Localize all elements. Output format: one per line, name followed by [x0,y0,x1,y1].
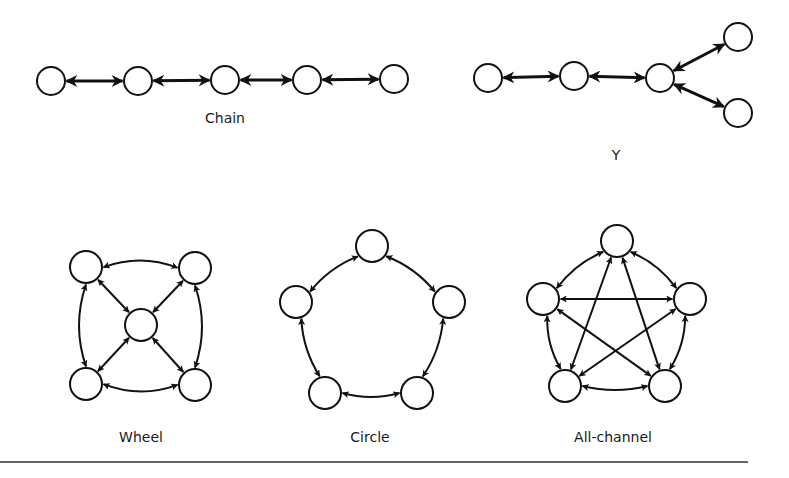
network-node [356,230,388,262]
bidirectional-arrow [622,258,659,370]
network-node [179,252,211,284]
network-circle [280,230,465,409]
bidirectional-arrow [579,309,675,376]
network-node [527,283,559,315]
label-chain: Chain [205,110,245,126]
bidirectional-curved-arrow [301,319,319,377]
network-node [124,67,152,95]
bidirectional-arrow [571,257,611,369]
network-node [474,64,502,92]
network-node [549,370,581,402]
bidirectional-curved-arrow [386,256,435,291]
bidirectional-curved-arrow [631,252,677,288]
network-node [280,286,312,318]
network-node [70,251,102,283]
bidirectional-curved-arrow [583,386,648,390]
bidirectional-curved-arrow [423,319,443,377]
network-node [293,66,321,94]
bidirectional-arrow [153,338,184,372]
bidirectional-arrow [153,80,209,81]
bidirectional-curved-arrow [79,285,86,367]
bidirectional-curved-arrow [195,286,202,368]
label-circle: Circle [350,429,389,445]
bidirectional-curved-arrow [310,256,358,291]
network-node [37,67,65,95]
network-node [211,66,239,94]
bidirectional-arrow [98,338,129,371]
bidirectional-curved-arrow [547,316,560,369]
network-node [125,309,157,341]
communication-networks-diagram: Chain Y Wheel Circle All-channel [0,0,789,478]
network-node [724,23,752,51]
bidirectional-arrow [153,281,183,313]
bidirectional-arrow [503,76,558,77]
network-y [474,23,752,127]
network-all-channel [527,225,706,402]
network-node [433,286,465,318]
network-node [401,377,433,409]
network-node [674,283,706,315]
network-node [309,377,341,409]
network-node [560,62,588,90]
bidirectional-arrow [589,76,644,77]
network-chain [37,65,408,95]
network-node [601,225,633,257]
network-node [724,99,752,127]
bidirectional-arrow [674,44,725,71]
bidirectional-curved-arrow [103,384,177,391]
bidirectional-arrow [98,280,129,313]
network-node [646,64,674,92]
label-y: Y [611,147,621,163]
label-all-channel: All-channel [574,429,652,445]
bidirectional-curved-arrow [670,316,685,369]
bidirectional-arrow [322,79,378,80]
network-node [649,370,681,402]
network-wheel [70,251,211,401]
bidirectional-curved-arrow [343,393,400,397]
bidirectional-arrow [674,84,724,106]
network-node [380,65,408,93]
label-wheel: Wheel [119,429,163,445]
bidirectional-curved-arrow [103,260,177,267]
network-node [70,368,102,400]
bidirectional-curved-arrow [557,252,603,288]
network-node [179,369,211,401]
